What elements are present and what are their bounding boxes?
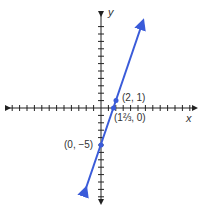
point-x-intercept [111,106,116,111]
point-2-1 [114,98,119,103]
y-axis-label: y [108,6,114,18]
x-axis-label: x [186,112,192,124]
point-y-intercept [99,143,104,148]
point-label-y-intercept: (0, −5) [64,139,93,150]
coordinate-plane [0,0,201,209]
point-label-x-intercept: (1⅔, 0) [114,112,146,123]
point-label-2-1: (2, 1) [122,92,145,103]
